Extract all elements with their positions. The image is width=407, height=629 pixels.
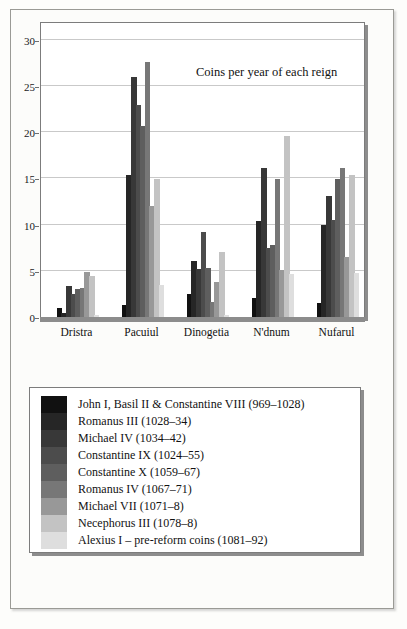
legend-item: Michael VII (1071–8) [41,498,304,515]
y-tick-mark [35,179,39,180]
legend-swatch [41,430,67,447]
plot-area-wrapper: Coins per year of each reign 05101520253… [40,22,365,318]
legend-swatch [41,498,67,515]
chart-title: Coins per year of each reign [196,65,337,80]
x-axis-label: Dristra [61,326,93,338]
legend-swatch [41,481,67,498]
x-axis-label: Dinogetia [184,326,229,338]
legend-label: Constantine IX (1024–55) [78,447,204,464]
bar [354,273,360,317]
y-tick-mark [35,226,39,227]
chart-figure: Coins per year of each reign 05101520253… [24,22,380,352]
legend-label: Romanus IV (1067–71) [78,481,192,498]
legend-item: Romanus IV (1067–71) [41,481,304,498]
legend-item: John I, Basil II & Constantine VIII (969… [41,396,304,413]
y-tick-mark [35,133,39,134]
bar [219,252,225,317]
x-axis-label: Pacuiul [124,326,159,338]
legend-item: Alexius I – pre-reform coins (1081–92) [41,532,304,549]
legend-label: Alexius I – pre-reform coins (1081–92) [78,532,268,549]
legend-swatch [41,413,67,430]
legend-swatch [41,396,67,413]
y-tick-label: 30 [24,35,35,47]
y-tick-label: 25 [24,81,35,93]
legend-label: John I, Basil II & Constantine VIII (969… [78,396,304,413]
y-tick-mark [35,272,39,273]
legend-item: Michael IV (1034–42) [41,430,304,447]
legend-swatch [41,464,67,481]
legend-label: Necephorus III (1078–8) [78,515,197,532]
legend-label: Michael VII (1071–8) [78,498,184,515]
legend-item: Constantine IX (1024–55) [41,447,304,464]
y-tick-mark [35,318,39,319]
legend-swatch [41,515,67,532]
legend-label: Constantine X (1059–67) [78,464,200,481]
plot-area: Coins per year of each reign [40,22,365,318]
legend-swatch [41,447,67,464]
legend-item: Necephorus III (1078–8) [41,515,304,532]
bar [89,276,95,317]
y-tick-label: 10 [24,220,35,232]
bar [289,274,295,317]
y-tick-mark [35,41,39,42]
bar [159,285,165,317]
x-axis-label: N'dnum [253,326,290,338]
legend-item: Romanus III (1028–34) [41,413,304,430]
legend-box: John I, Basil II & Constantine VIII (969… [29,387,361,553]
legend-wrapper: John I, Basil II & Constantine VIII (969… [29,387,361,553]
legend-label: Michael IV (1034–42) [78,430,186,447]
y-tick-label: 15 [24,173,35,185]
legend-rows: John I, Basil II & Constantine VIII (969… [41,396,304,549]
legend-item: Constantine X (1059–67) [41,464,304,481]
legend-label: Romanus III (1028–34) [78,413,191,430]
x-axis-label: Nufarul [319,326,355,338]
x-axis-labels: DristraPacuiulDinogetiaN'dnumNufarul [40,322,365,344]
page-root: Coins per year of each reign 05101520253… [0,0,407,629]
y-tick-label: 20 [24,127,35,139]
legend-swatch [41,532,67,549]
y-tick-mark [35,87,39,88]
